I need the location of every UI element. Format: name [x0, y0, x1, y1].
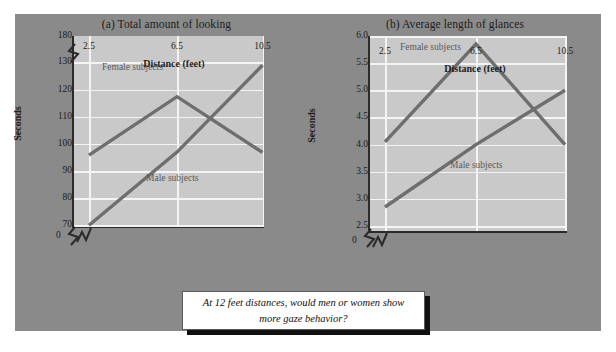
chart-b-ytick-group: 6.0 5.5 5.0 4.5 4.0 3.5 3.0 2.5: [322, 36, 368, 231]
chart-b-plot-area: Female subjects Male subjects 6.0 5.5 5.…: [368, 36, 567, 233]
ytick-b-5_0: 5.0: [356, 86, 368, 96]
xtick-b-10_5: 10.5: [557, 46, 574, 56]
caption-card: At 12 feet distances, would men or women…: [182, 291, 425, 330]
chart-a-ylabel: Seconds: [12, 106, 23, 140]
chart-b-xlabel: Distance (feet): [444, 63, 505, 74]
chart-a-zero-tick: 0: [56, 230, 61, 240]
xtick-b-6_5: 6.5: [470, 46, 482, 56]
chart-b-ylabel: Seconds: [306, 108, 317, 142]
ytick-a-120: 120: [58, 85, 72, 95]
xtick-a-10_5: 10.5: [254, 41, 271, 51]
caption-text: At 12 feet distances, would men or women…: [183, 295, 424, 325]
chart-a-ytick-group: 180 130 120 110 100 90 80 70: [26, 36, 72, 226]
ytick-a-80: 80: [63, 193, 73, 203]
ytick-b-5_5: 5.5: [356, 58, 368, 68]
chart-a-label-male: Male subjects: [146, 173, 199, 183]
chart-b-label-female: Female subjects: [400, 42, 461, 52]
chart-b-x-axis-break: [373, 231, 391, 247]
ytick-b-4_0: 4.0: [356, 140, 368, 150]
ytick-a-100: 100: [58, 139, 72, 149]
figure-root: (a) Total amount of looking Female subje…: [0, 0, 616, 352]
chart-b-zero-tick: 0: [352, 235, 357, 245]
chart-b: (b) Average length of glances Female sub…: [310, 18, 580, 288]
ytick-b-3_0: 3.0: [356, 194, 368, 204]
ytick-b-6_0: 6.0: [356, 31, 368, 41]
ytick-a-90: 90: [63, 166, 73, 176]
xtick-b-2_5: 2.5: [379, 46, 391, 56]
chart-a-x-axis-break: [77, 226, 95, 242]
ytick-a-180: 180: [58, 31, 72, 41]
chart-a-plot-area: Female subjects Male subjects 180 130 12…: [72, 36, 264, 228]
series-b-male: [385, 90, 565, 207]
chart-b-title: (b) Average length of glances: [310, 18, 580, 30]
ytick-b-4_5: 4.5: [356, 113, 368, 123]
xtick-a-6_5: 6.5: [171, 41, 183, 51]
series-a-male: [89, 65, 263, 225]
ytick-b-3_5: 3.5: [356, 167, 368, 177]
series-b-female: [385, 44, 565, 145]
chart-a-y-axis-break-top: [67, 44, 83, 62]
chart-a: (a) Total amount of looking Female subje…: [22, 18, 287, 288]
chart-b-label-male: Male subjects: [450, 160, 503, 170]
series-a-female: [89, 97, 263, 155]
xtick-a-2_5: 2.5: [83, 41, 95, 51]
chart-a-title: (a) Total amount of looking: [22, 18, 287, 30]
chart-a-xlabel: Distance (feet): [143, 58, 204, 69]
ytick-a-110: 110: [58, 112, 72, 122]
